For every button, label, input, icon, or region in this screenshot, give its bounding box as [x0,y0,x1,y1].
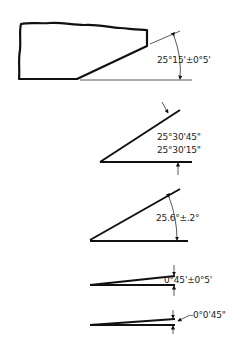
label-decimal-angle: 25.6°±.2° [156,213,199,223]
extension-line-upper [150,31,180,44]
drawing-canvas [0,0,246,354]
label-tiny-angle: -0°0'45" [190,310,226,320]
label-angle-upper-limit: 25°30'45" [157,132,201,142]
leader-line-5 [178,315,190,321]
angle4-upper-line [90,276,175,285]
part-outline [19,23,147,79]
label-angle-lower-limit: 25°30'15" [157,145,201,155]
label-small-angle: 0°45'±0°5' [164,275,212,285]
angle2-arrow-top [162,102,168,113]
label-chamfer-angle: 25°15'±0°5' [157,55,211,65]
